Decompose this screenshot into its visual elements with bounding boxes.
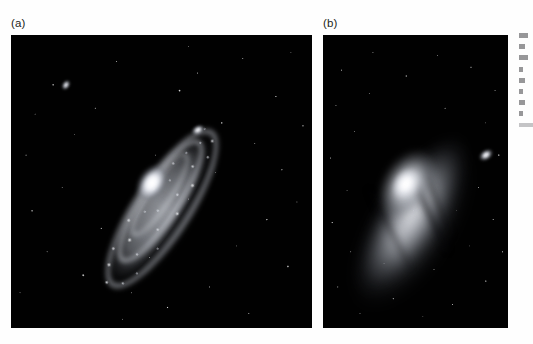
caption-text-line [519, 123, 533, 127]
caption-text-line [519, 33, 528, 38]
panel-image-b [323, 35, 508, 328]
panel-image-a [11, 35, 312, 328]
caption-text-line [519, 44, 525, 49]
figure-root: (a) (b) [0, 0, 533, 344]
disk-knot-bright-b [375, 241, 387, 253]
caption-text-line [519, 111, 523, 116]
caption-text-line [519, 55, 528, 60]
cropped-caption-column [519, 33, 533, 163]
caption-text-line [519, 89, 523, 94]
caption-text-line [519, 78, 525, 83]
disk-knot-secondary-b [423, 213, 431, 221]
caption-text-line [519, 100, 525, 105]
panel-label-b: (b) [323, 18, 337, 30]
caption-text-line [519, 67, 523, 72]
panel-label-a: (a) [11, 18, 25, 30]
